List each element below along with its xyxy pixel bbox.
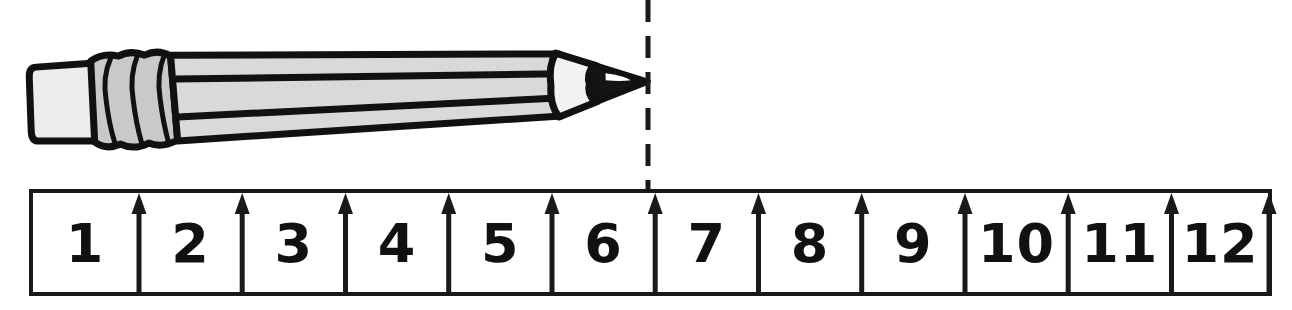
ruler-number: 7 (688, 212, 727, 275)
pencil-eraser (29, 63, 98, 143)
ruler-number: 8 (791, 212, 830, 275)
ruler-number: 12 (1181, 212, 1258, 275)
ruler-number: 2 (171, 212, 210, 275)
pencil (28, 34, 649, 151)
ruler-number: 10 (978, 212, 1055, 275)
ruler-number: 1 (66, 212, 105, 275)
ruler-number: 11 (1081, 212, 1158, 275)
ruler-number: 3 (275, 212, 314, 275)
measurement-diagram: 1 2 3 4 5 6 7 8 9 10 11 12 (0, 0, 1292, 310)
ruler-number: 4 (378, 212, 417, 275)
ruler-number: 6 (584, 212, 623, 275)
ruler-number: 5 (481, 212, 520, 275)
ruler-number: 9 (894, 212, 933, 275)
figure-canvas: 1 2 3 4 5 6 7 8 9 10 11 12 (0, 0, 1292, 310)
ruler: 1 2 3 4 5 6 7 8 9 10 11 12 (31, 191, 1277, 294)
pencil-barrel (171, 41, 562, 141)
pencil-graphite-tip (587, 63, 648, 103)
